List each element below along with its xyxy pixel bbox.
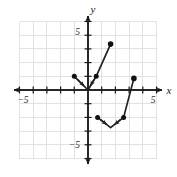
y-axis-label: y: [90, 3, 96, 15]
coordinate-plane-plot: −5 5 5 −5 x y: [0, 0, 177, 177]
x-tick-label-neg5: −5: [17, 95, 28, 105]
y-tick-label-neg5: −5: [69, 140, 80, 150]
y-tick-label-5: 5: [75, 27, 80, 37]
data-point-marker: [72, 74, 77, 79]
data-point-marker: [108, 41, 114, 47]
data-point-marker: [131, 76, 137, 82]
x-axis-label: x: [166, 84, 172, 96]
x-tick-label-5: 5: [151, 95, 156, 105]
data-point-marker: [121, 115, 126, 120]
graph-figure: −5 5 5 −5 x y: [0, 0, 177, 177]
data-point-marker: [94, 74, 99, 79]
data-point-marker: [95, 115, 100, 120]
